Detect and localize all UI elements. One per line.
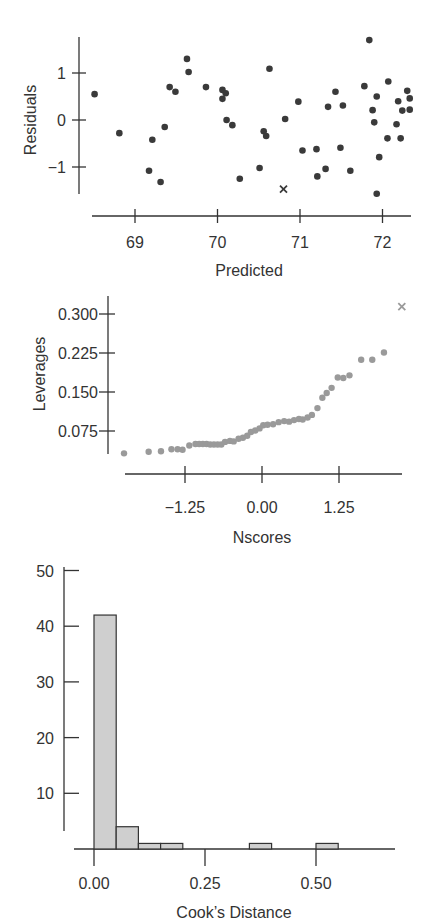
data-point (347, 167, 354, 174)
x-tick-label: 1.25 (323, 499, 354, 516)
leverages-vs-nscores-chart: 0.3000.2250.1500.075 −1.250.001.25 Lever… (0, 280, 427, 550)
y-tick-label: 20 (36, 730, 54, 747)
data-point (323, 390, 329, 396)
y-ticks: 5040302010 (36, 563, 79, 803)
data-point (263, 133, 270, 140)
outlier-x-marker (398, 303, 405, 310)
data-point (157, 179, 164, 186)
data-point (149, 136, 156, 143)
y-axis-title: Residuals (22, 85, 39, 155)
y-tick-label: 1 (57, 65, 66, 82)
histogram-bar (161, 843, 183, 849)
data-point (369, 357, 375, 363)
data-point (91, 91, 98, 98)
data-point (309, 412, 315, 418)
data-point (116, 130, 123, 137)
data-point (373, 93, 380, 100)
y-tick-label: 0.150 (58, 384, 98, 401)
data-point (179, 447, 185, 453)
data-point (358, 357, 364, 363)
histogram-bar (138, 843, 160, 849)
data-point (340, 102, 347, 109)
data-point (397, 135, 404, 142)
histogram-bar (94, 615, 116, 849)
y-ticks: 0.3000.2250.1500.075 (58, 306, 115, 440)
data-point (236, 175, 243, 182)
data-point (186, 442, 192, 448)
data-point (266, 65, 273, 72)
data-point (395, 98, 402, 105)
data-point (319, 395, 325, 401)
x-axis-title: Cook’s Distance (176, 904, 291, 921)
x-tick-label: 0.50 (300, 875, 331, 892)
x-tick-label: 0.25 (189, 875, 220, 892)
x-tick-label: 70 (209, 234, 227, 251)
figure: 10−1 69707172 Residuals Predicted 0.3000… (0, 0, 427, 923)
y-tick-label: 10 (36, 785, 54, 802)
data-point (121, 450, 127, 456)
y-ticks: 10−1 (48, 65, 86, 176)
data-point (313, 146, 320, 153)
x-ticks: 69707172 (126, 209, 391, 251)
y-tick-label: 40 (36, 618, 54, 635)
y-tick-label: 0.300 (58, 306, 98, 323)
x-axis-title: Nscores (233, 529, 292, 546)
y-tick-label: 50 (36, 563, 54, 580)
data-point (219, 96, 226, 103)
y-tick-label: 0.075 (58, 423, 98, 440)
data-points (91, 37, 413, 197)
histogram-bar (249, 843, 271, 849)
histogram-bar (316, 843, 338, 849)
data-point (223, 117, 230, 124)
x-tick-label: −1.25 (165, 499, 206, 516)
data-point (184, 56, 191, 63)
data-point (373, 190, 380, 197)
x-ticks: 0.000.250.50 (78, 849, 331, 892)
y-tick-label: 0.225 (58, 345, 98, 362)
data-point (385, 78, 392, 85)
data-point (384, 135, 391, 142)
data-point (325, 104, 332, 111)
data-point (322, 166, 329, 173)
x-tick-label: 69 (126, 234, 144, 251)
x-tick-label: 72 (374, 234, 392, 251)
data-point (256, 165, 263, 172)
data-point (314, 173, 321, 180)
x-axis-title: Predicted (215, 262, 283, 279)
data-point (222, 90, 229, 97)
x-tick-label: 0.00 (78, 875, 109, 892)
data-point (185, 69, 192, 76)
data-point (393, 121, 400, 128)
data-point (406, 106, 413, 113)
data-point (332, 89, 339, 96)
data-point (328, 385, 334, 391)
y-axis-title: Leverages (31, 337, 48, 412)
data-point (203, 84, 210, 91)
data-point (282, 116, 289, 123)
data-point (366, 37, 373, 44)
histogram-bar (116, 827, 138, 849)
data-point (399, 107, 406, 114)
data-point (314, 405, 320, 411)
data-points (121, 303, 406, 456)
data-point (406, 95, 413, 102)
data-point (275, 419, 281, 425)
data-point (145, 449, 151, 455)
cooks-distance-histogram: 5040302010 0.000.250.50 Cook’s Distance (0, 555, 427, 923)
data-point (168, 446, 174, 452)
y-tick-label: 30 (36, 674, 54, 691)
data-point (361, 83, 368, 90)
data-point (376, 154, 383, 161)
data-point (295, 98, 302, 105)
data-point (346, 372, 352, 378)
data-point (335, 374, 341, 380)
data-point (381, 349, 387, 355)
data-point (299, 147, 306, 154)
data-point (146, 167, 153, 174)
x-tick-label: 0.00 (246, 499, 277, 516)
data-point (172, 89, 179, 96)
data-point (158, 448, 164, 454)
data-point (337, 144, 344, 151)
histogram-bars (94, 615, 338, 849)
data-point (340, 375, 346, 381)
